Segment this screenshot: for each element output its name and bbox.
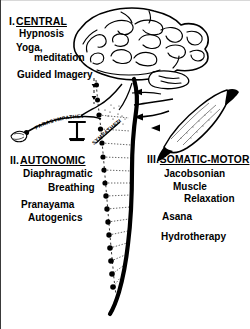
section-heading-somatic-motor: III.SOMATIC-MOTOR xyxy=(147,155,249,166)
central-item-3: meditation xyxy=(34,53,85,63)
central-item-1: Hypnosis xyxy=(19,29,64,39)
section-numeral-autonomic: II. xyxy=(10,154,20,166)
somatic-item-3: Relaxation xyxy=(184,194,235,204)
autonomic-item-1: Diaphragmatic xyxy=(23,169,92,179)
parasympathetic-target-organ xyxy=(11,131,27,141)
section-numeral-central: I. xyxy=(9,15,16,27)
autonomic-item-2: Breathing xyxy=(48,183,95,193)
section-heading-autonomic: II.AUTONOMIC xyxy=(10,155,86,166)
section-title-central: CENTRAL xyxy=(16,15,67,27)
somatic-item-5: Hydrotherapy xyxy=(161,232,226,242)
brain-illustration xyxy=(74,8,208,89)
stipple xyxy=(101,105,126,125)
somatic-item-1: Jacobsonian xyxy=(164,169,225,179)
section-title-autonomic: AUTONOMIC xyxy=(20,154,85,166)
section-numeral-somatic-motor: III. xyxy=(147,154,160,165)
autonomic-item-3: Pranayama xyxy=(21,200,74,210)
autonomic-item-4: Autogenics xyxy=(28,213,82,223)
section-heading-central: I.CENTRAL xyxy=(9,16,67,27)
ganglion-node xyxy=(94,83,116,290)
figure-canvas: PARASYMPATHETIC SYMPATHETIC xyxy=(0,0,250,329)
sympathetic-target-organ xyxy=(69,122,85,141)
somatic-item-4: Asana xyxy=(162,212,192,222)
spinal-cord xyxy=(81,79,137,314)
somatic-item-2: Muscle xyxy=(173,182,207,192)
section-title-somatic-motor: SOMATIC-MOTOR xyxy=(160,154,250,165)
central-item-4: Guided Imagery xyxy=(17,70,93,80)
